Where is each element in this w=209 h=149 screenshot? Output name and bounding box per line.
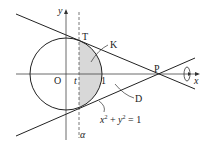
alpha-label: α <box>80 129 86 140</box>
lower-tangent-line <box>16 58 195 136</box>
y-axis-arrow-icon <box>64 9 68 14</box>
point-p-label: P <box>154 63 160 74</box>
y-axis-label: y <box>57 5 63 16</box>
eq-plus: + <box>107 114 118 125</box>
region-k-label: K <box>110 39 118 50</box>
region-d-label: D <box>135 93 142 104</box>
t-label: t <box>74 75 77 86</box>
origin-label: O <box>54 75 61 86</box>
circle-equation: x2 + y2 = 1 <box>99 114 141 125</box>
eq-rhs: = 1 <box>126 114 142 125</box>
point-t-label: T <box>82 31 88 42</box>
diagram-canvas: y x O t 1 T P K D α x2 + y2 = 1 <box>0 0 209 149</box>
rotation-arrowhead-icon <box>188 72 191 76</box>
leader-eq <box>99 101 104 112</box>
x-axis-label: x <box>193 75 199 86</box>
one-label: 1 <box>101 75 106 86</box>
